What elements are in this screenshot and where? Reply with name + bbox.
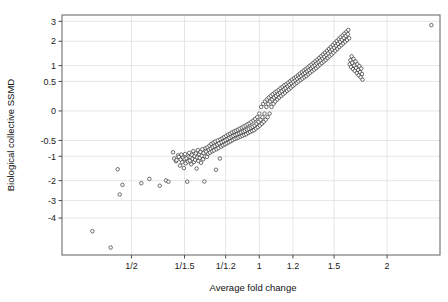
y-tick-label: -1 bbox=[48, 152, 56, 162]
y-tick-label: 1 bbox=[51, 61, 56, 71]
data-point bbox=[347, 28, 351, 32]
x-tick-label: 1 bbox=[257, 261, 262, 271]
data-point bbox=[185, 180, 189, 184]
data-point bbox=[195, 167, 199, 171]
data-point bbox=[258, 112, 262, 116]
data-point bbox=[360, 67, 364, 71]
data-point bbox=[194, 152, 198, 156]
chart-figure: 3210.50-0.5-1-2-3-4 1/21/1.51/1.211.21.5… bbox=[0, 0, 448, 302]
data-point bbox=[180, 161, 184, 165]
y-axis-title: Biological collective SSMD bbox=[5, 79, 16, 192]
data-point bbox=[158, 184, 162, 188]
data-point bbox=[347, 37, 351, 41]
y-tick-label: -4 bbox=[48, 213, 56, 223]
figure-background bbox=[0, 0, 448, 302]
data-point bbox=[116, 168, 120, 172]
y-tick-label: 0.5 bbox=[43, 77, 56, 87]
data-point bbox=[109, 246, 113, 250]
data-point bbox=[361, 78, 365, 82]
data-point bbox=[178, 164, 182, 168]
data-point bbox=[175, 158, 179, 162]
data-point bbox=[203, 180, 207, 184]
data-point bbox=[199, 161, 203, 165]
data-point bbox=[182, 166, 186, 170]
data-point bbox=[360, 72, 364, 76]
y-tick-label: 2 bbox=[51, 36, 56, 46]
data-point bbox=[140, 181, 144, 185]
y-tick-label: -0.5 bbox=[40, 136, 56, 146]
data-point bbox=[266, 115, 270, 119]
scatter-plot-svg: 3210.50-0.5-1-2-3-4 1/21/1.51/1.211.21.5… bbox=[0, 0, 448, 302]
y-tick-label: 0 bbox=[51, 106, 56, 116]
x-tick-label: 1/1.5 bbox=[175, 261, 195, 271]
data-point bbox=[121, 183, 125, 187]
x-tick-label: 1.2 bbox=[287, 261, 300, 271]
data-point bbox=[148, 177, 152, 181]
data-point bbox=[167, 180, 171, 184]
data-point bbox=[218, 157, 222, 161]
data-point bbox=[201, 147, 205, 151]
x-axis-title: Average fold change bbox=[210, 282, 297, 293]
data-point bbox=[171, 151, 175, 155]
x-tick-label: 1/2 bbox=[125, 261, 138, 271]
x-tick-label: 2 bbox=[385, 261, 390, 271]
x-tick-label: 1.5 bbox=[328, 261, 341, 271]
data-point bbox=[91, 229, 95, 233]
data-point bbox=[430, 23, 434, 27]
y-tick-label: -2 bbox=[48, 176, 56, 186]
y-tick-label: -3 bbox=[48, 196, 56, 206]
data-point bbox=[183, 152, 187, 156]
data-point bbox=[263, 112, 267, 116]
data-point bbox=[346, 32, 350, 36]
data-point bbox=[118, 193, 122, 197]
data-point bbox=[214, 168, 218, 172]
y-tick-label: 3 bbox=[51, 17, 56, 27]
x-tick-label: 1/1.2 bbox=[216, 261, 236, 271]
data-point bbox=[256, 115, 260, 119]
data-point bbox=[268, 112, 272, 116]
data-point bbox=[261, 115, 265, 119]
